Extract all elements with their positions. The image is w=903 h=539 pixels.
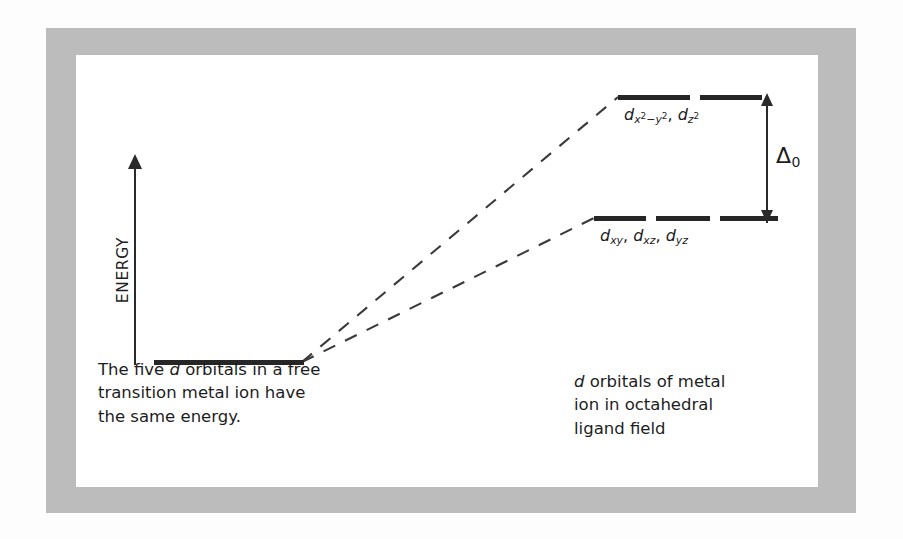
correlation-line-to-t2g — [302, 218, 594, 362]
caption-left-text-a: The five — [98, 360, 170, 379]
caption-right-italic-d: d — [574, 372, 584, 391]
delta-symbol: Δ — [776, 143, 791, 168]
crystal-field-splitting-diagram: ENERGY dx2−y2, dz2 dxy, dxz, dyz Δ0 — [0, 0, 903, 539]
caption-free-ion: The five d orbitals in a free transition… — [98, 358, 398, 428]
correlation-line-to-eg — [302, 97, 618, 362]
caption-right-line3: ligand field — [574, 419, 666, 438]
eg-level-label: dx2−y2, dz2 — [624, 105, 699, 126]
delta-arrow-shaft — [766, 103, 768, 223]
caption-right-line2: ion in octahedral — [574, 395, 713, 414]
delta-subscript: 0 — [791, 154, 800, 170]
energy-axis-line — [134, 165, 136, 365]
caption-left-text-c: orbitals in a free — [180, 360, 320, 379]
caption-left-italic-d: d — [170, 360, 180, 379]
diagram-plot-area: ENERGY dx2−y2, dz2 dxy, dxz, dyz Δ0 — [76, 55, 818, 487]
delta-arrow-head-down-icon — [761, 210, 773, 223]
caption-left-line2: transition metal ion have — [98, 383, 305, 402]
caption-right-text-b: orbitals of metal — [584, 372, 725, 391]
caption-octahedral-field: d orbitals of metal ion in octahedral li… — [574, 370, 784, 440]
delta-splitting-label: Δ0 — [776, 143, 800, 170]
energy-axis-label: ENERGY — [114, 215, 132, 325]
caption-left-line3: the same energy. — [98, 407, 241, 426]
eg-level-bar-1 — [618, 95, 690, 100]
eg-level-bar-2 — [700, 95, 762, 100]
t2g-level-bar-1 — [594, 216, 646, 221]
t2g-level-label: dxy, dxz, dyz — [600, 226, 688, 247]
t2g-level-bar-2 — [656, 216, 710, 221]
